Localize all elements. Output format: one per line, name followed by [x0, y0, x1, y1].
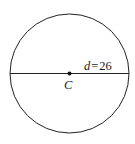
diameter-variable: d [84, 59, 91, 73]
center-label: C [64, 78, 73, 92]
diameter-value: 26 [99, 59, 112, 73]
diameter-label: d=26 [84, 59, 112, 73]
center-point [68, 72, 72, 76]
diameter-equals: = [91, 59, 98, 73]
circle-diagram: C d=26 [0, 0, 135, 144]
